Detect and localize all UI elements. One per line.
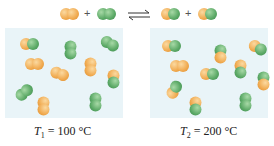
molecule — [164, 78, 185, 102]
molecule — [98, 34, 122, 55]
product-mixed-molecule — [161, 8, 181, 21]
molecule — [200, 68, 220, 81]
molecule — [84, 58, 97, 78]
molecule — [107, 70, 120, 90]
molecule — [13, 81, 37, 104]
reactant-green-molecule — [97, 8, 117, 21]
molecule — [162, 40, 182, 53]
molecule — [170, 60, 190, 73]
molecule — [48, 65, 71, 84]
molecule — [189, 97, 202, 117]
label-t1: T1 = 100 °C — [34, 124, 91, 140]
equilibrium-arrows-icon — [126, 9, 152, 21]
molecule — [214, 45, 227, 65]
reaction-equation: + + — [0, 4, 274, 26]
molecule — [25, 58, 45, 71]
reactant-orange-molecule — [60, 8, 80, 21]
molecule — [89, 93, 102, 113]
molecule — [20, 38, 40, 51]
plus-sign: + — [84, 7, 90, 19]
product-mixed-molecule — [198, 8, 218, 21]
molecule — [257, 72, 270, 92]
label-t2: T2 = 200 °C — [180, 124, 237, 140]
panel-t1 — [5, 28, 123, 118]
molecule — [37, 97, 50, 117]
panel-t2 — [150, 28, 268, 118]
molecule — [234, 60, 247, 80]
plus-sign: + — [185, 7, 191, 19]
molecule — [64, 41, 77, 61]
molecule — [239, 93, 252, 113]
molecule — [246, 38, 270, 59]
